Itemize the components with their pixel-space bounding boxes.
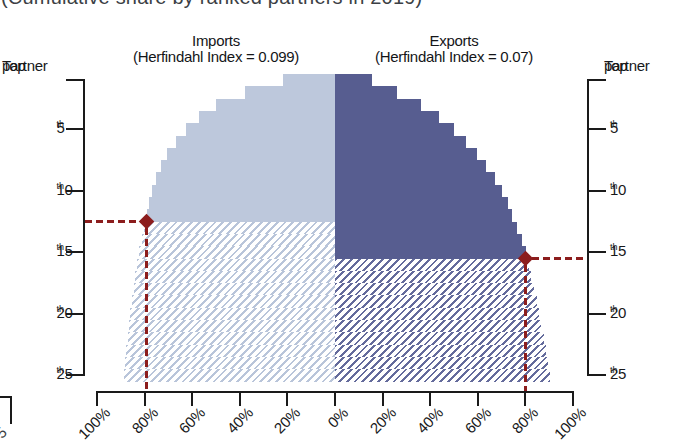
right-rank-tick-20 <box>587 313 606 315</box>
bottom-axis-tick-10 <box>572 391 574 406</box>
bottom-axis-tick-1 <box>144 391 146 406</box>
bar-exports-rank-12 <box>335 209 512 222</box>
bar-exports-rank-7 <box>335 148 477 161</box>
bar-exports-rank-19 <box>335 295 537 308</box>
imports-marker-hdash <box>85 220 141 223</box>
bar-imports-rank-23 <box>126 345 335 358</box>
bottom-axis-label-7: 40% <box>414 404 447 437</box>
plot-area: ToppartnerToppartner5th5th10th10th15th15… <box>0 0 683 448</box>
cropped-fragment-vline <box>10 396 12 424</box>
bar-exports-rank-6 <box>335 136 466 149</box>
bar-exports-rank-23 <box>335 345 546 358</box>
right-rank-label-15: 15th <box>610 242 668 259</box>
bar-exports-rank-21 <box>335 320 541 333</box>
right-rank-tick-25 <box>587 374 606 376</box>
bar-imports-rank-14 <box>142 234 336 247</box>
exports-marker-vdash <box>524 265 527 392</box>
right-rank-label-25: 25th <box>610 365 668 382</box>
right-rank-label-10: 10th <box>610 181 668 198</box>
right-rank-tick-15 <box>587 251 606 253</box>
bottom-axis-label-1: 80% <box>128 404 161 437</box>
left-rank-tick-1 <box>66 79 85 81</box>
bar-imports-rank-15 <box>139 246 335 259</box>
left-rank-label-25: 25th <box>6 365 64 382</box>
right-rank-tick-5 <box>587 128 606 130</box>
bar-imports-rank-6 <box>176 136 336 149</box>
bar-exports-rank-15 <box>335 246 526 259</box>
bottom-axis-tick-4 <box>286 391 288 406</box>
bar-imports-rank-22 <box>128 332 336 345</box>
bar-exports-rank-18 <box>335 283 534 296</box>
bar-exports-rank-13 <box>335 222 517 235</box>
bar-exports-rank-10 <box>335 185 502 198</box>
bar-exports-rank-24 <box>335 357 548 370</box>
bar-imports-rank-8 <box>161 160 335 173</box>
bar-exports-rank-4 <box>335 111 439 124</box>
bar-exports-rank-3 <box>335 99 421 112</box>
bar-imports-rank-3 <box>216 99 335 112</box>
bar-exports-rank-14 <box>335 234 522 247</box>
bottom-axis-label-2: 60% <box>176 404 209 437</box>
bar-imports-rank-17 <box>135 271 335 284</box>
bottom-axis-tick-6 <box>382 391 384 406</box>
bar-imports-rank-19 <box>132 295 335 308</box>
bar-imports-rank-5 <box>186 123 335 136</box>
bar-exports-rank-25 <box>335 369 550 382</box>
imports-marker-vdash <box>145 228 148 391</box>
bottom-axis-label-6: 20% <box>366 404 399 437</box>
right-rank-tick-1 <box>587 79 606 81</box>
bar-exports-rank-1 <box>335 74 372 87</box>
bar-exports-rank-8 <box>335 160 486 173</box>
left-rank-label-5: 5th <box>6 119 64 136</box>
bar-imports-rank-25 <box>124 369 335 382</box>
bar-imports-rank-4 <box>199 111 335 124</box>
bottom-axis-tick-0 <box>96 391 98 406</box>
bottom-axis-label-0: 100% <box>75 404 113 442</box>
bar-exports-rank-9 <box>335 172 495 185</box>
bar-imports-rank-10 <box>152 185 335 198</box>
bottom-axis-tick-3 <box>239 391 241 406</box>
cropped-fragment-glyph: 5 <box>0 424 10 442</box>
bar-imports-rank-13 <box>144 222 335 235</box>
left-rank-axis-line <box>83 79 85 376</box>
bar-exports-rank-22 <box>335 332 544 345</box>
bar-imports-rank-11 <box>149 197 335 210</box>
bar-exports-rank-20 <box>335 308 539 321</box>
bar-exports-rank-16 <box>335 259 529 272</box>
bottom-axis-label-9: 80% <box>509 404 542 437</box>
bottom-axis-label-4: 20% <box>271 404 304 437</box>
right-rank-label-5: 5th <box>610 119 668 136</box>
bottom-axis-tick-7 <box>429 391 431 406</box>
bar-exports-rank-5 <box>335 123 454 136</box>
left-rank-label-10: 10th <box>6 181 64 198</box>
bar-imports-rank-18 <box>134 283 335 296</box>
bottom-axis-label-8: 60% <box>461 404 494 437</box>
bar-imports-rank-9 <box>156 172 335 185</box>
bottom-axis-tick-9 <box>524 391 526 406</box>
bottom-axis-tick-2 <box>191 391 193 406</box>
left-rank-label-15: 15th <box>6 242 64 259</box>
right-rank-label-20: 20th <box>610 304 668 321</box>
bar-imports-rank-2 <box>245 86 335 99</box>
right-rank-tick-10 <box>587 190 606 192</box>
bottom-axis-label-5: 0% <box>324 404 351 431</box>
bar-exports-rank-2 <box>335 86 397 99</box>
bottom-axis-label-10: 100% <box>551 404 589 442</box>
bottom-axis-tick-5 <box>334 391 336 406</box>
bar-exports-rank-11 <box>335 197 508 210</box>
left-rank-label-20: 20th <box>6 304 64 321</box>
bar-exports-rank-17 <box>335 271 531 284</box>
bar-imports-rank-12 <box>147 209 336 222</box>
bar-imports-rank-24 <box>125 357 335 370</box>
bottom-axis-tick-8 <box>477 391 479 406</box>
bar-imports-rank-16 <box>137 259 335 272</box>
bar-imports-rank-20 <box>130 308 335 321</box>
exports-marker-hdash <box>532 257 587 260</box>
bar-imports-rank-1 <box>283 74 335 87</box>
bottom-axis-label-3: 40% <box>223 404 256 437</box>
left-rank-tick-5 <box>66 128 85 130</box>
bar-imports-rank-21 <box>129 320 335 333</box>
bar-imports-rank-7 <box>167 148 335 161</box>
right-rank-axis-line <box>587 79 589 376</box>
